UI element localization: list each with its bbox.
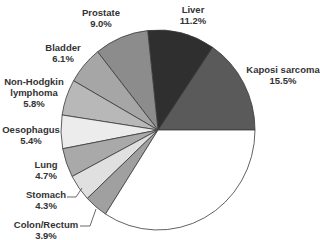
label-kaposi-sarcoma: Kaposi sarcoma15.5% bbox=[246, 64, 319, 86]
label-name: Stomach bbox=[26, 189, 66, 200]
label-pct: 3.9% bbox=[14, 230, 78, 240]
label-name: Bladder bbox=[45, 42, 80, 53]
label-prostate: Prostate9.0% bbox=[82, 7, 120, 29]
label-pct: 9.0% bbox=[82, 18, 120, 29]
label-colon-rectum: Colon/Rectum3.9% bbox=[14, 219, 78, 240]
label-name-line2: lymphoma bbox=[4, 87, 64, 98]
label-liver: Liver11.2% bbox=[180, 4, 206, 26]
pie-slices bbox=[61, 30, 255, 230]
label-pct: 5.4% bbox=[2, 135, 60, 146]
label-pct: 11.2% bbox=[180, 15, 206, 26]
label-name: Oesophagus bbox=[2, 124, 60, 135]
colon-leader-line bbox=[80, 209, 96, 226]
label-lung: Lung4.7% bbox=[34, 159, 57, 181]
label-bladder: Bladder6.1% bbox=[45, 42, 80, 64]
label-pct: 4.7% bbox=[34, 170, 57, 181]
label-name: Colon/Rectum bbox=[14, 219, 78, 230]
label-stomach: Stomach4.3% bbox=[26, 189, 66, 211]
label-name: Liver bbox=[180, 4, 206, 15]
label-oesophagus: Oesophagus5.4% bbox=[2, 124, 60, 146]
label-name: Lung bbox=[34, 159, 57, 170]
label-name: Non-Hodgkin bbox=[4, 76, 64, 87]
label-pct: 4.3% bbox=[26, 200, 66, 211]
label-name: Kaposi sarcoma bbox=[246, 64, 319, 75]
label-pct: 6.1% bbox=[45, 53, 80, 64]
label-name: Prostate bbox=[82, 7, 120, 18]
label-pct: 15.5% bbox=[246, 75, 319, 86]
label-pct: 5.8% bbox=[4, 98, 64, 109]
label-non-hodgkin-lymphoma: Non-Hodgkinlymphoma5.8% bbox=[4, 76, 64, 109]
